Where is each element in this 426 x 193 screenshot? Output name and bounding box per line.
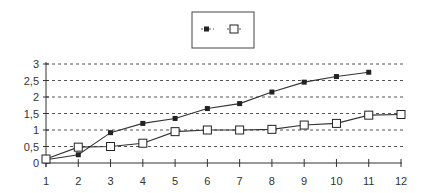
filled-square-marker-icon [204, 27, 209, 32]
legend-box [192, 12, 254, 48]
filled-square-marker-icon [302, 80, 307, 85]
x-tick-label: 9 [301, 175, 307, 187]
filled-square-marker-icon [205, 106, 210, 111]
filled-square-marker-icon [334, 74, 339, 79]
hollow-square-marker-icon [268, 125, 276, 133]
filled-square-marker-icon [366, 70, 371, 75]
y-tick-label: 3 [33, 58, 39, 70]
hollow-square-marker-icon [171, 128, 179, 136]
filled-square-marker-icon [108, 130, 113, 135]
y-tick-label: 2 [33, 91, 39, 103]
series-1 [44, 70, 372, 162]
hollow-square-marker-icon [107, 143, 115, 151]
y-axis-labels: 00,511,522,53 [24, 58, 39, 169]
axes [43, 62, 402, 167]
filled-square-marker-icon [269, 90, 274, 95]
legend [192, 12, 254, 48]
y-tick-label: 0 [33, 157, 39, 169]
x-tick-label: 10 [330, 175, 342, 187]
y-tick-label: 1,5 [24, 108, 39, 120]
x-tick-label: 8 [269, 175, 275, 187]
hollow-square-marker-icon [139, 139, 147, 147]
hollow-square-marker-icon [42, 155, 50, 163]
hollow-square-marker-icon [236, 126, 244, 134]
line-chart: 00,511,522,53 123456789101112 [0, 0, 426, 193]
hollow-square-marker-icon [397, 110, 405, 118]
x-tick-label: 5 [172, 175, 178, 187]
x-tick-label: 4 [140, 175, 146, 187]
hollow-square-marker-icon [332, 119, 340, 127]
series-2 [42, 110, 405, 163]
hollow-square-marker-icon [203, 126, 211, 134]
x-tick-label: 3 [107, 175, 113, 187]
series-line [46, 114, 401, 159]
x-tick-label: 6 [204, 175, 210, 187]
hollow-square-marker-icon [365, 111, 373, 119]
hollow-square-marker-icon [300, 121, 308, 129]
hollow-square-marker-icon [230, 25, 238, 33]
x-tick-label: 7 [237, 175, 243, 187]
hollow-square-marker-icon [74, 143, 82, 151]
y-tick-label: 2,5 [24, 75, 39, 87]
y-tick-label: 1 [33, 124, 39, 136]
x-tick-label: 12 [395, 175, 407, 187]
filled-square-marker-icon [140, 121, 145, 126]
x-tick-label: 2 [75, 175, 81, 187]
filled-square-marker-icon [76, 152, 81, 157]
filled-square-marker-icon [237, 101, 242, 106]
data-series [42, 70, 405, 163]
y-tick-label: 0,5 [24, 141, 39, 153]
x-tick-label: 11 [363, 175, 374, 187]
x-axis-labels: 123456789101112 [43, 175, 407, 187]
filled-square-marker-icon [173, 116, 178, 121]
x-tick-label: 1 [43, 175, 49, 187]
